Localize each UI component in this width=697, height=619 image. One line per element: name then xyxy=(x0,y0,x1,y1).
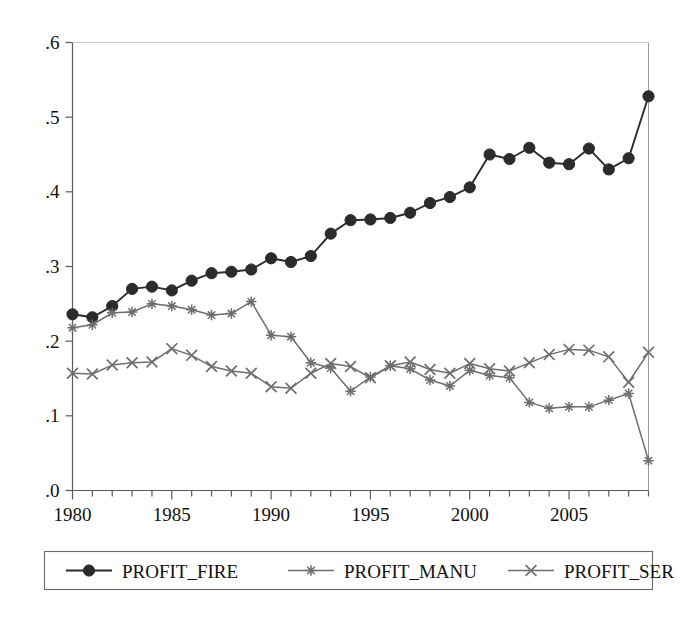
chart-figure: .0.1.2.3.4.5.6 198019851990199520002005 … xyxy=(0,0,697,619)
x-tick-label-2: 1990 xyxy=(252,504,290,525)
marker-profit_manu-2008 xyxy=(623,388,633,398)
marker-profit_manu-1989 xyxy=(246,296,256,306)
marker-profit_fire-1988 xyxy=(226,266,237,277)
x-tick-label-3: 1995 xyxy=(351,504,389,525)
legend-entry-profit_manu[interactable]: PROFIT_MANU xyxy=(288,561,477,582)
legend-marker-profit_manu xyxy=(306,565,316,575)
marker-profit_fire-2006 xyxy=(583,143,594,154)
axis-spines xyxy=(73,43,649,491)
marker-profit_fire-1984 xyxy=(146,281,157,292)
marker-profit_manu-1999 xyxy=(445,381,455,391)
series-markers-profit_fire xyxy=(67,91,654,323)
data-series-layer xyxy=(67,91,654,466)
marker-profit_fire-2007 xyxy=(603,164,614,175)
marker-profit_fire-2001 xyxy=(484,149,495,160)
marker-profit_fire-1991 xyxy=(285,256,296,267)
legend-entry-profit_ser[interactable]: PROFIT_SER xyxy=(508,561,674,582)
marker-profit_fire-2008 xyxy=(623,153,634,164)
marker-profit_manu-2009 xyxy=(643,455,653,465)
marker-profit_fire-1995 xyxy=(365,214,376,225)
marker-profit_manu-1991 xyxy=(286,331,296,341)
legend-label-profit_manu: PROFIT_MANU xyxy=(344,561,477,582)
marker-profit_manu-2007 xyxy=(604,395,614,405)
marker-profit_fire-1997 xyxy=(405,207,416,218)
legend-label-profit_fire: PROFIT_FIRE xyxy=(122,561,238,582)
series-line-profit_manu xyxy=(73,302,649,461)
marker-profit_manu-1985 xyxy=(167,301,177,311)
marker-profit_manu-2006 xyxy=(584,402,594,412)
marker-profit_ser-1992 xyxy=(305,368,316,379)
marker-profit_fire-1986 xyxy=(186,275,197,286)
x-axis-tick-labels: 198019851990199520002005 xyxy=(54,504,589,525)
y-tick-label-5: .5 xyxy=(45,107,59,128)
marker-profit_manu-2005 xyxy=(564,402,574,412)
x-tick-label-0: 1980 xyxy=(54,504,92,525)
marker-profit_fire-1998 xyxy=(424,197,435,208)
marker-profit_ser-2004 xyxy=(544,349,555,360)
marker-profit_manu-1994 xyxy=(345,386,355,396)
marker-profit_manu-2003 xyxy=(524,397,534,407)
marker-profit_fire-1980 xyxy=(67,309,78,320)
series-profit_ser xyxy=(67,343,654,393)
marker-profit_manu-1981 xyxy=(87,320,97,330)
marker-profit_manu-1990 xyxy=(266,330,276,340)
marker-profit_fire-1987 xyxy=(206,268,217,279)
marker-profit_fire-1994 xyxy=(345,215,356,226)
line-chart: .0.1.2.3.4.5.6 198019851990199520002005 … xyxy=(0,0,697,619)
marker-profit_manu-1986 xyxy=(186,305,196,315)
marker-profit_fire-2000 xyxy=(464,182,475,193)
series-profit_fire xyxy=(67,91,654,323)
marker-profit_fire-2005 xyxy=(563,159,574,170)
marker-profit_manu-1987 xyxy=(206,310,216,320)
marker-profit_ser-1987 xyxy=(206,361,217,372)
marker-profit_fire-1993 xyxy=(325,228,336,239)
marker-profit_fire-2003 xyxy=(524,142,535,153)
marker-profit_manu-1983 xyxy=(127,307,137,317)
y-tick-label-3: .3 xyxy=(45,256,59,277)
marker-profit_fire-1999 xyxy=(444,191,455,202)
chart-legend: PROFIT_FIREPROFIT_MANUPROFIT_SER xyxy=(45,552,675,590)
x-tick-label-4: 2000 xyxy=(451,504,489,525)
x-tick-label-5: 2005 xyxy=(550,504,588,525)
marker-profit_fire-1992 xyxy=(305,250,316,261)
marker-profit_manu-1980 xyxy=(67,323,77,333)
marker-profit_fire-2004 xyxy=(544,157,555,168)
x-tick-label-1: 1985 xyxy=(153,504,191,525)
marker-profit_ser-2003 xyxy=(524,357,535,368)
plot-axes xyxy=(66,43,649,500)
marker-profit_manu-1982 xyxy=(107,308,117,318)
marker-profit_fire-1989 xyxy=(246,264,257,275)
series-line-profit_ser xyxy=(73,349,649,389)
marker-profit_ser-2007 xyxy=(603,351,614,362)
legend-entry-profit_fire[interactable]: PROFIT_FIRE xyxy=(66,561,238,582)
marker-profit_fire-1996 xyxy=(385,212,396,223)
marker-profit_fire-1983 xyxy=(126,283,137,294)
marker-profit_manu-1992 xyxy=(306,358,316,368)
series-markers-profit_manu xyxy=(67,296,653,465)
marker-profit_fire-2002 xyxy=(504,153,515,164)
marker-profit_manu-1984 xyxy=(147,299,157,309)
marker-profit_fire-2009 xyxy=(643,91,654,102)
legend-label-profit_ser: PROFIT_SER xyxy=(564,561,674,582)
y-tick-label-2: .2 xyxy=(45,331,59,352)
legend-marker-profit_fire xyxy=(83,565,94,576)
y-axis-tick-labels: .0.1.2.3.4.5.6 xyxy=(45,32,60,501)
marker-profit_ser-1986 xyxy=(186,350,197,361)
marker-profit_manu-1988 xyxy=(226,308,236,318)
y-tick-label-1: .1 xyxy=(45,405,59,426)
marker-profit_fire-1985 xyxy=(166,285,177,296)
y-tick-label-4: .4 xyxy=(45,181,60,202)
y-tick-label-0: .0 xyxy=(45,480,59,501)
y-tick-label-6: .6 xyxy=(45,32,59,53)
marker-profit_fire-1990 xyxy=(266,253,277,264)
marker-profit_manu-1998 xyxy=(425,375,435,385)
series-line-profit_fire xyxy=(73,96,649,317)
marker-profit_ser-1985 xyxy=(166,343,177,354)
marker-profit_manu-2004 xyxy=(544,403,554,413)
series-profit_manu xyxy=(67,296,653,465)
marker-profit_ser-2008 xyxy=(623,377,634,388)
